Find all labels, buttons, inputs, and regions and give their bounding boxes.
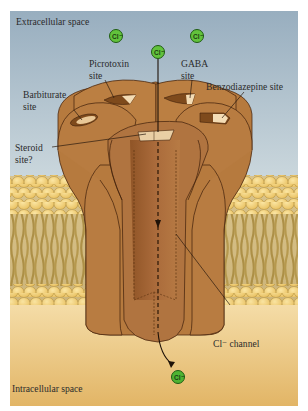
- cl-ion: Cl⁻: [191, 30, 204, 43]
- svg-text:Cl⁻: Cl⁻: [193, 33, 204, 40]
- svg-text:Cl⁻: Cl⁻: [174, 374, 185, 381]
- cl-ion: Cl⁻: [110, 30, 123, 43]
- svg-text:Cl⁻: Cl⁻: [112, 33, 123, 40]
- svg-text:Cl⁻: Cl⁻: [154, 49, 165, 56]
- steroid-pocket: [138, 130, 174, 141]
- picrotoxin-label: Picrotoxin: [89, 58, 129, 69]
- cl-ion: Cl⁻: [172, 371, 185, 384]
- picrotoxin-label-2: site: [89, 70, 102, 81]
- gaba-receptor-diagram: Cl⁻ Cl⁻ Cl⁻ Cl⁻ Extracellular space Intr…: [0, 0, 308, 411]
- barbiturate-label: Barbiturate: [23, 89, 66, 100]
- benzodiazepine-label: Benzodiazepine site: [206, 81, 283, 92]
- barbiturate-label-2: site: [23, 101, 36, 112]
- gaba-receptor-protein: [58, 80, 252, 342]
- steroid-label-2: site?: [15, 154, 33, 165]
- steroid-label: Steroid: [15, 142, 43, 153]
- extracellular-label: Extracellular space: [16, 16, 89, 27]
- channel-label: Cl⁻ channel: [213, 338, 260, 349]
- cl-ion: Cl⁻: [152, 46, 165, 59]
- gaba-label: GABA: [181, 58, 208, 69]
- intracellular-label: Intracellular space: [12, 383, 83, 394]
- gaba-label-2: site: [181, 70, 194, 81]
